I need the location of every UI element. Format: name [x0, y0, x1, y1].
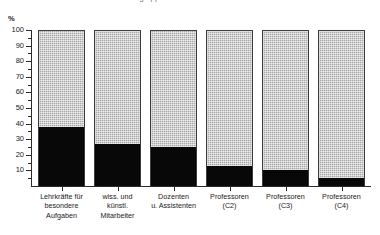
- y-tick-mark-minor: [28, 85, 31, 86]
- x-tick-mark: [174, 187, 175, 191]
- table-row: [150, 30, 197, 186]
- x-axis-label-line: besondere: [31, 201, 93, 210]
- x-axis-baseline: [31, 186, 371, 187]
- x-axis-label-line: künstl.: [87, 201, 149, 210]
- x-axis-label-line: Mitarbeiter: [87, 211, 149, 220]
- y-tick-mark: [26, 46, 31, 47]
- bar-segment-lower: [150, 147, 197, 186]
- x-axis-label: Professoren(C2): [199, 192, 261, 211]
- y-tick-mark: [26, 155, 31, 156]
- y-tick-label: 20: [2, 151, 24, 159]
- bar-segment-lower: [262, 170, 309, 186]
- y-tick-mark: [26, 77, 31, 78]
- bar-segment-upper: [38, 30, 85, 127]
- x-tick-mark: [118, 187, 119, 191]
- y-tick-mark-minor: [28, 178, 31, 179]
- x-tick-mark: [230, 187, 231, 191]
- y-tick-mark: [26, 92, 31, 93]
- bar-segment-upper: [318, 30, 365, 178]
- y-axis-unit-label: %: [8, 14, 15, 23]
- y-tick-label: 30: [2, 135, 24, 143]
- x-axis-label: wiss. undkünstl.Mitarbeiter: [87, 192, 149, 220]
- x-axis-label-line: Aufgaben: [31, 211, 93, 220]
- x-axis-label-line: (C3): [255, 201, 317, 210]
- bar-segment-lower: [206, 166, 253, 186]
- x-tick-mark: [62, 187, 63, 191]
- y-tick-mark-minor: [28, 100, 31, 101]
- x-axis-label-line: (C2): [199, 201, 261, 210]
- y-tick-mark-minor: [28, 131, 31, 132]
- x-tick-mark: [286, 187, 287, 191]
- bar-segment-lower: [94, 144, 141, 186]
- y-tick-mark: [26, 124, 31, 125]
- y-tick-mark-minor: [28, 163, 31, 164]
- x-axis-label-line: Professoren: [311, 192, 373, 201]
- bar-segment-upper: [94, 30, 141, 144]
- y-tick-label: 60: [2, 88, 24, 96]
- y-tick-mark: [26, 139, 31, 140]
- bar-segment-lower: [38, 127, 85, 186]
- y-tick-mark-minor: [28, 69, 31, 70]
- y-tick-mark-minor: [28, 116, 31, 117]
- x-axis-label-line: (C4): [311, 201, 373, 210]
- bar-segment-upper: [262, 30, 309, 170]
- x-axis-label: Professoren(C3): [255, 192, 317, 211]
- x-axis-label: Professoren(C4): [311, 192, 373, 211]
- bar-segment-lower: [318, 178, 365, 186]
- x-tick-mark: [342, 187, 343, 191]
- y-tick-label: 10: [2, 166, 24, 174]
- x-axis-label-line: u. Assistenten: [143, 201, 205, 210]
- x-axis-label: Dozentenu. Assistenten: [143, 192, 205, 211]
- x-axis-label: Lehrkräfte fürbesondereAufgaben: [31, 192, 93, 220]
- x-axis-label-line: Lehrkräfte für: [31, 192, 93, 201]
- y-tick-label: 40: [2, 120, 24, 128]
- stacked-bar-chart: % 100908070605040302010 Lehrkräfte fürbe…: [0, 0, 380, 235]
- y-tick-mark: [26, 170, 31, 171]
- bar-segment-upper: [150, 30, 197, 147]
- x-axis-label-line: Professoren: [199, 192, 261, 201]
- y-tick-mark-minor: [28, 53, 31, 54]
- table-row: [262, 30, 309, 186]
- table-row: [38, 30, 85, 186]
- table-row: [318, 30, 365, 186]
- table-row: [94, 30, 141, 186]
- y-tick-label: 80: [2, 57, 24, 65]
- y-tick-label: 90: [2, 42, 24, 50]
- x-axis-label-line: Dozenten: [143, 192, 205, 201]
- bar-segment-upper: [206, 30, 253, 166]
- y-axis-line: [31, 30, 32, 187]
- x-axis-label-line: wiss. und: [87, 192, 149, 201]
- y-tick-label: 50: [2, 104, 24, 112]
- y-tick-label: 100: [2, 26, 24, 34]
- y-tick-mark: [26, 108, 31, 109]
- table-row: [206, 30, 253, 186]
- y-tick-mark: [26, 30, 31, 31]
- x-axis-label-line: Professoren: [255, 192, 317, 201]
- y-tick-mark: [26, 61, 31, 62]
- y-tick-mark-minor: [28, 38, 31, 39]
- y-tick-mark-minor: [28, 147, 31, 148]
- y-tick-label: 70: [2, 73, 24, 81]
